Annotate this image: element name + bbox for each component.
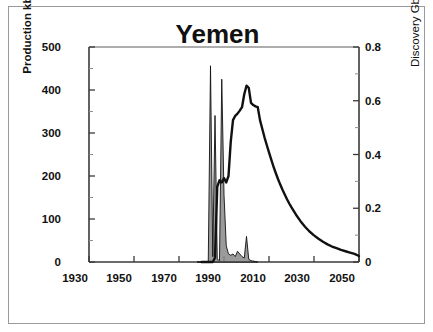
discovery-area-series [197,66,258,262]
plot-canvas [9,7,426,325]
figure-frame: Yemen Production kb/d Discovery Gb (shad… [8,6,425,324]
figure-root: Yemen Production kb/d Discovery Gb (shad… [0,0,433,332]
